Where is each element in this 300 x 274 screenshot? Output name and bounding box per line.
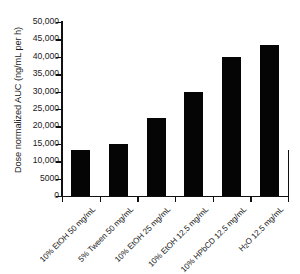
x-tick-mark <box>62 196 63 202</box>
bar <box>71 150 90 196</box>
bar <box>260 45 279 196</box>
y-tick-label: 0 <box>0 190 59 200</box>
bar <box>222 57 241 196</box>
y-tick-label: 20,000 <box>0 120 59 130</box>
y-tick-label: 40,000 <box>0 51 59 61</box>
y-tick-label: 10,000 <box>0 155 59 165</box>
x-tick-label: 10% EtOH 12.5 mg/mL <box>146 205 210 269</box>
x-tick-mark <box>213 196 214 202</box>
x-tick-label: 10% HPbCD 12.5 mg/mL <box>179 205 248 274</box>
y-tick-label: 45,000 <box>0 33 59 43</box>
x-tick-label: 10% EtOH 25 mg/mL <box>113 205 172 264</box>
y-tick-label: 25,000 <box>0 103 59 113</box>
x-tick-mark <box>100 196 101 202</box>
y-tick-label: 50,000 <box>0 16 59 26</box>
x-tick-label: 10% EtOH 50 mg/mL <box>38 205 97 264</box>
x-tick-label: H2O 12.5 mg/mL <box>237 205 285 253</box>
plot-area <box>62 22 288 196</box>
x-tick-mark <box>137 196 138 202</box>
x-tick-mark <box>175 196 176 202</box>
y-tick-label: 30,000 <box>0 86 59 96</box>
y-tick-label: 35,000 <box>0 68 59 78</box>
y-tick-label: 5000 <box>0 173 59 183</box>
x-tick-mark <box>250 196 251 202</box>
x-tick-mark <box>288 196 289 202</box>
bar <box>184 92 203 196</box>
y-tick-label: 15,000 <box>0 138 59 148</box>
bar <box>147 118 166 196</box>
x-tick-label: 5% Tween 50 mg/mL <box>76 205 135 264</box>
bar <box>109 144 128 196</box>
